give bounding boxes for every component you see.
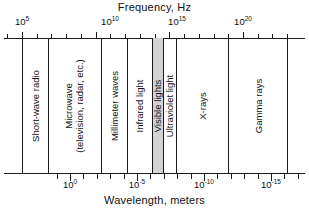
spectrum-band-x-rays[interactable]: X-rays	[177, 38, 229, 173]
spectrum-band-ultraviolet-light[interactable]: Ultraviolet light	[164, 38, 177, 173]
electromagnetic-spectrum-figure: Frequency, Hz 105101010151020 Short-wave…	[0, 0, 309, 211]
band-label-infrared-light: Infrared light	[135, 79, 146, 132]
spectrum-band-infrared-light[interactable]: Infrared light	[128, 38, 153, 173]
bottom-tick-minor-12	[231, 174, 232, 179]
spectrum-band-visible-lights[interactable]: Visible lights	[153, 38, 164, 173]
bottom-tick-minor-9	[191, 174, 192, 179]
bottom-tick-minor-1	[83, 174, 84, 179]
band-label-short-wave-radio: Short-wave radio	[30, 70, 41, 142]
band-label-ultraviolet-light: Ultraviolet light	[165, 74, 176, 136]
spectrum-band-box: Short-wave radioMicrowave(television, ra…	[22, 38, 288, 173]
bottom-tick-minor-8	[177, 174, 178, 179]
top-tick-label-1: 1010	[101, 17, 119, 27]
bottom-tick-label-2: 10-10	[194, 180, 214, 190]
bottom-tick-minor-3	[110, 174, 111, 179]
bottom-tick-minor-4	[124, 174, 125, 179]
top-tick-label-2: 1015	[168, 17, 186, 27]
band-label-x-rays: X-rays	[197, 92, 208, 119]
bottom-axis-line	[4, 173, 305, 174]
bottom-tick-minor-2	[97, 174, 98, 179]
bottom-tick-label-1: 10-5	[129, 180, 145, 190]
bottom-tick-minor-17	[298, 174, 299, 179]
band-label-visible-lights: Visible lights	[153, 79, 163, 132]
bottom-tick-label-3: 10-15	[261, 180, 281, 190]
spectrum-band-short-wave-radio[interactable]: Short-wave radio	[23, 38, 49, 173]
band-label-gamma-rays: Gamma rays	[254, 78, 265, 132]
bottom-tick-label-0: 100	[63, 180, 77, 190]
top-axis-title: Frequency, Hz	[0, 1, 309, 13]
band-label-millimeter-waves: Millimeter waves	[109, 70, 120, 140]
bottom-tick-minor-6	[150, 174, 151, 179]
bottom-axis-title: Wavelength, meters	[0, 194, 309, 206]
top-tick-label-0: 105	[15, 17, 29, 27]
spectrum-band-microwave[interactable]: Microwave(television, radar, etc.)	[49, 38, 102, 173]
spectrum-band-millimeter-waves[interactable]: Millimeter waves	[102, 38, 128, 173]
bottom-tick-minor-14	[258, 174, 259, 179]
spectrum-band-gamma-rays[interactable]: Gamma rays	[229, 38, 289, 173]
bottom-tick-minor-13	[244, 174, 245, 179]
bottom-tick-minor-16	[284, 174, 285, 179]
bottom-tick-minor-11	[217, 174, 218, 179]
top-tick-label-3: 1020	[234, 17, 252, 27]
band-label-microwave: Microwave(television, radar, etc.)	[64, 42, 85, 170]
bottom-tick-minor-7	[164, 174, 165, 179]
bottom-tick-minor--1	[57, 174, 58, 179]
